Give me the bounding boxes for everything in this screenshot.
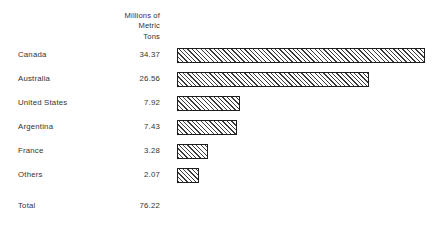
bar xyxy=(177,144,208,159)
value-label: 7.92 xyxy=(96,95,160,111)
value-column-header-line-1: Millions of xyxy=(96,11,160,21)
value-label: 2.07 xyxy=(96,167,160,183)
bar-track xyxy=(177,168,199,183)
value-label: 34.37 xyxy=(96,47,160,63)
category-label: France xyxy=(18,143,43,159)
bar xyxy=(177,168,199,183)
bar xyxy=(177,48,425,63)
bar-track xyxy=(177,144,208,159)
value-label: 26.56 xyxy=(96,71,160,87)
bar xyxy=(177,120,237,135)
category-label: Argentina xyxy=(18,119,53,135)
category-label: Australia xyxy=(18,71,50,87)
total-value: 76.22 xyxy=(96,198,160,214)
bar-track xyxy=(177,120,237,135)
value-label: 3.28 xyxy=(96,143,160,159)
chart-row: Canada 34.37 xyxy=(0,47,444,63)
value-column-header-line-3: Tons xyxy=(96,32,160,42)
total-row: Total 76.22 xyxy=(0,198,444,214)
bar xyxy=(177,96,240,111)
bar-chart-figure: Millions of Metric Tons Canada 34.37 Aus… xyxy=(0,0,444,231)
value-label: 7.43 xyxy=(96,119,160,135)
category-label: Canada xyxy=(18,47,47,63)
chart-row: Australia 26.56 xyxy=(0,71,444,87)
bar xyxy=(177,72,369,87)
chart-row: United States 7.92 xyxy=(0,95,444,111)
chart-row: Argentina 7.43 xyxy=(0,119,444,135)
category-label: Others xyxy=(18,167,43,183)
bar-track xyxy=(177,72,369,87)
value-column-header: Millions of Metric Tons xyxy=(96,11,160,42)
chart-row: France 3.28 xyxy=(0,143,444,159)
category-label: United States xyxy=(18,95,67,111)
bar-track xyxy=(177,96,240,111)
value-column-header-line-2: Metric xyxy=(96,21,160,31)
bar-track xyxy=(177,48,425,63)
total-label: Total xyxy=(18,198,35,214)
chart-row: Others 2.07 xyxy=(0,167,444,183)
